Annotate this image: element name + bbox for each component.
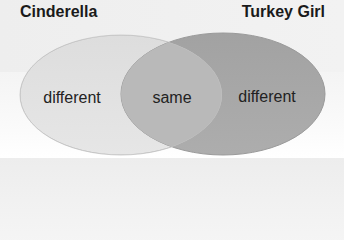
label-same: same bbox=[152, 89, 191, 107]
label-right-different: different bbox=[238, 88, 296, 106]
venn-diagram bbox=[0, 0, 344, 158]
label-left-different: different bbox=[43, 89, 101, 107]
